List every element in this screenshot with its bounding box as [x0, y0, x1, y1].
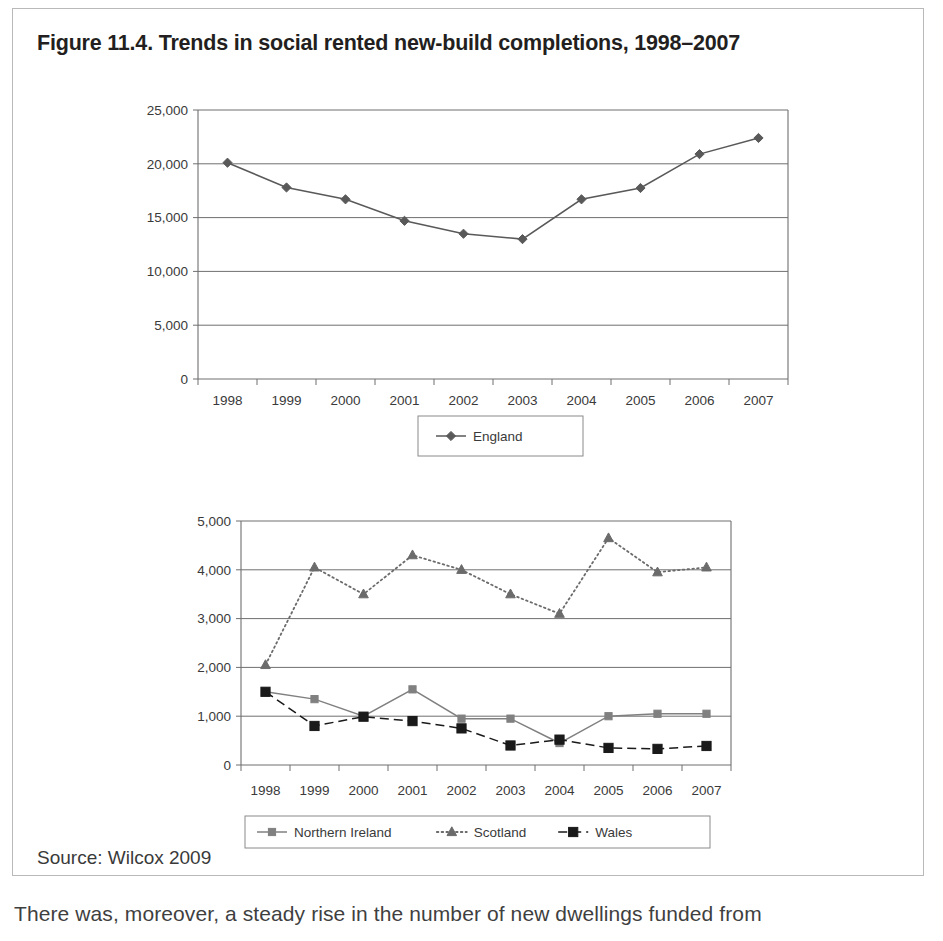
filled-square-marker [359, 712, 368, 721]
triangle-marker [359, 589, 369, 598]
x-axis-tick-label: 1998 [212, 393, 242, 408]
y-axis-tick-label: 2,000 [197, 660, 231, 675]
series-line [266, 538, 707, 665]
triangle-marker [447, 827, 457, 836]
y-axis-tick-label: 1,000 [197, 709, 231, 724]
triangle-marker [555, 609, 565, 618]
square-marker [654, 710, 661, 717]
devolved-nations-line-chart: 01,0002,0003,0004,0005,00019981999200020… [13, 479, 833, 849]
triangle-marker [604, 533, 614, 542]
diamond-marker [518, 235, 527, 244]
england-line-chart: 05,00010,00015,00020,00025,0001998199920… [13, 81, 833, 461]
y-axis-tick-label: 0 [180, 372, 188, 387]
x-axis-tick-label: 2007 [691, 783, 721, 798]
source-note: Source: Wilcox 2009 [37, 847, 211, 869]
diamond-marker [695, 150, 704, 159]
y-axis-tick-label: 4,000 [197, 563, 231, 578]
series-line [266, 692, 707, 749]
x-axis-tick-label: 2002 [448, 393, 478, 408]
x-axis-tick-label: 2004 [544, 783, 575, 798]
square-marker [507, 715, 514, 722]
square-marker [268, 828, 275, 835]
square-marker [605, 713, 612, 720]
figure-container: Figure 11.4. Trends in social rented new… [12, 8, 924, 876]
x-axis-tick-label: 2005 [625, 393, 655, 408]
diamond-marker [754, 133, 763, 142]
x-axis-tick-label: 1999 [299, 783, 329, 798]
diamond-marker [636, 183, 645, 192]
triangle-marker [261, 660, 271, 669]
x-axis-tick-label: 2003 [495, 783, 525, 798]
x-axis-tick-label: 2006 [684, 393, 714, 408]
x-axis-tick-label: 2000 [348, 783, 378, 798]
diamond-marker [446, 431, 455, 440]
figure-page: Figure 11.4. Trends in social rented new… [0, 0, 943, 941]
triangle-marker [408, 550, 418, 559]
legend-label: Wales [595, 825, 632, 840]
square-marker [409, 686, 416, 693]
y-axis-tick-label: 25,000 [147, 103, 188, 118]
x-axis-tick-label: 2001 [397, 783, 427, 798]
x-axis-tick-label: 2004 [566, 393, 597, 408]
legend-label: Northern Ireland [294, 825, 392, 840]
diamond-marker [341, 195, 350, 204]
filled-square-marker [457, 724, 466, 733]
series-line [228, 138, 759, 239]
x-axis-tick-label: 1998 [250, 783, 280, 798]
filled-square-marker [310, 721, 319, 730]
square-marker [311, 696, 318, 703]
diamond-marker [223, 158, 232, 167]
y-axis-tick-label: 20,000 [147, 157, 188, 172]
filled-square-marker [702, 741, 711, 750]
x-axis-tick-label: 2000 [330, 393, 360, 408]
triangle-marker [310, 562, 320, 571]
diamond-marker [577, 195, 586, 204]
filled-square-marker [506, 741, 515, 750]
square-marker [703, 710, 710, 717]
body-text-fragment: There was, moreover, a steady rise in th… [14, 902, 929, 926]
x-axis-tick-label: 2003 [507, 393, 537, 408]
x-axis-tick-label: 2002 [446, 783, 476, 798]
y-axis-tick-label: 5,000 [197, 514, 231, 529]
filled-square-marker [555, 735, 564, 744]
x-axis-tick-label: 2001 [389, 393, 419, 408]
legend-label: Scotland [474, 825, 527, 840]
triangle-marker [506, 589, 516, 598]
filled-square-marker [408, 716, 417, 725]
y-axis-tick-label: 0 [223, 758, 231, 773]
x-axis-tick-label: 2007 [743, 393, 773, 408]
y-axis-tick-label: 3,000 [197, 611, 231, 626]
y-axis-tick-label: 15,000 [147, 210, 188, 225]
filled-square-marker [604, 743, 613, 752]
square-marker [458, 715, 465, 722]
filled-square-marker [569, 827, 578, 836]
y-axis-tick-label: 10,000 [147, 264, 188, 279]
figure-title: Figure 11.4. Trends in social rented new… [37, 31, 740, 56]
x-axis-tick-label: 2006 [642, 783, 672, 798]
filled-square-marker [653, 744, 662, 753]
filled-square-marker [261, 687, 270, 696]
y-axis-tick-label: 5,000 [154, 318, 188, 333]
triangle-marker [702, 562, 712, 571]
x-axis-tick-label: 1999 [271, 393, 301, 408]
x-axis-tick-label: 2005 [593, 783, 623, 798]
legend-label: England [473, 429, 523, 444]
diamond-marker [282, 183, 291, 192]
diamond-marker [459, 229, 468, 238]
